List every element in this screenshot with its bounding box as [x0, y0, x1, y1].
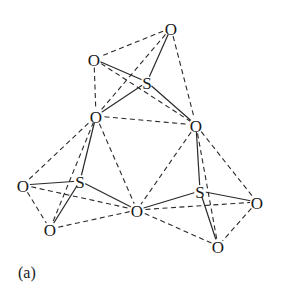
dashed-edge	[96, 116, 137, 210]
bond-line	[94, 59, 147, 82]
dashed-edge	[50, 116, 96, 229]
oxygen-atom-label: O	[17, 177, 29, 196]
figure-caption: (a)	[18, 264, 36, 282]
oxygen-atom-label: O	[165, 20, 177, 39]
dashed-edge	[137, 210, 218, 246]
dashed-edge	[96, 28, 171, 116]
dashed-edge	[96, 116, 196, 125]
bond-line	[23, 181, 80, 185]
dashed-edge	[137, 125, 196, 210]
sulfate-tetrahedra-diagram: OOSOOOSOOSOO (a)	[0, 0, 286, 284]
sulfur-atom-label: S	[142, 74, 151, 93]
oxygen-atom-label: O	[190, 117, 202, 136]
oxygen-atom-label: O	[251, 194, 263, 213]
oxygen-atom-label: O	[131, 202, 143, 221]
dashed-edge	[137, 202, 257, 210]
dashed-edge	[23, 116, 96, 185]
bond-line	[137, 191, 200, 210]
oxygen-atom-label: O	[90, 108, 102, 127]
bond-line	[147, 82, 196, 125]
oxygen-atom-label: O	[44, 221, 56, 240]
dashed-edge	[171, 28, 196, 125]
oxygen-atom-label: O	[212, 238, 224, 257]
oxygen-atom-label: O	[88, 51, 100, 70]
bond-line	[96, 82, 147, 116]
dashed-edge	[50, 210, 137, 229]
sulfur-atom-label: S	[195, 183, 204, 202]
bond-line	[80, 181, 137, 210]
atoms: OOSOOOSOOSOO	[16, 20, 264, 257]
sulfur-atom-label: S	[75, 173, 84, 192]
